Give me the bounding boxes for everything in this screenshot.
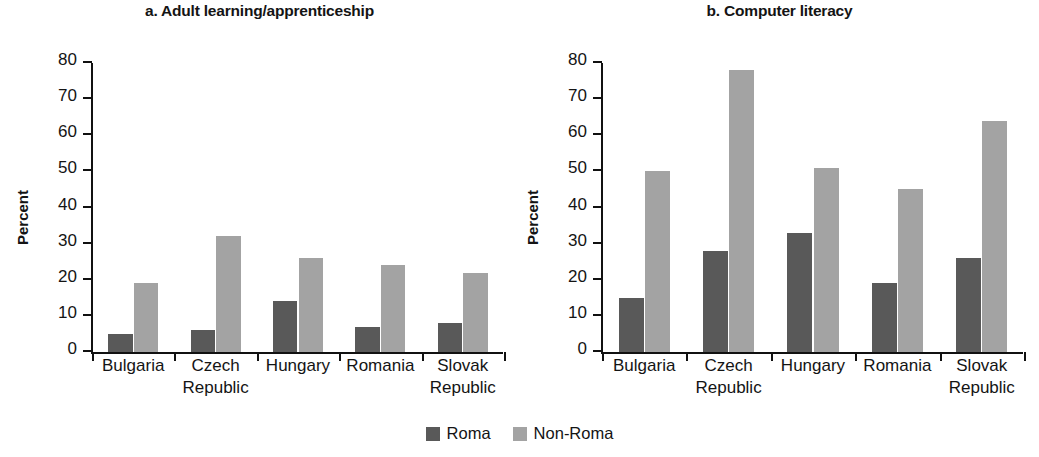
bar-a-bulgaria-non-roma	[134, 283, 158, 352]
y-axis-tick: 10	[593, 314, 602, 316]
panel-b-y-axis-line	[601, 63, 603, 353]
panel-a-y-axis-line	[91, 63, 93, 353]
y-axis-tick: 20	[593, 278, 602, 280]
y-axis-tick-label: 50	[568, 158, 587, 178]
panel-b-plot-area: BulgariaCzechRepublicHungaryRomaniaSlova…	[602, 63, 1024, 352]
bar-a-romania-roma	[355, 327, 379, 352]
bar-b-romania-roma	[872, 283, 897, 352]
bar-a-czech-republic-roma	[191, 330, 215, 352]
y-axis-tick: 80	[83, 61, 92, 63]
x-axis-category-label: Hungary	[771, 355, 855, 377]
bar-b-czech-republic-non-roma	[729, 70, 754, 352]
y-axis-tick: 0	[83, 350, 92, 352]
y-axis-tick-label: 40	[58, 195, 77, 215]
legend-label: Non-Roma	[534, 424, 614, 443]
x-axis-category-label: SlovakRepublic	[422, 355, 504, 399]
bar-b-hungary-roma	[787, 233, 812, 352]
panel-a-y-axis-label: Percent	[14, 190, 31, 245]
x-axis-category-label: Hungary	[257, 355, 339, 377]
legend-label: Roma	[447, 424, 491, 443]
y-axis-tick: 40	[83, 206, 92, 208]
y-axis-tick: 30	[593, 242, 602, 244]
y-axis-tick: 60	[593, 133, 602, 135]
legend-item-non-roma: Non-Roma	[513, 424, 614, 443]
x-axis-tick	[339, 352, 341, 361]
legend-item-roma: Roma	[426, 424, 491, 443]
x-axis-tick	[92, 352, 94, 361]
bar-a-czech-republic-non-roma	[216, 236, 240, 352]
chart-panel-a: a. Adult learning/apprenticeship Percent…	[0, 0, 519, 412]
legend-swatch-roma	[426, 427, 440, 441]
bar-b-bulgaria-non-roma	[645, 171, 670, 352]
x-axis-tick	[422, 352, 424, 361]
y-axis-tick-label: 20	[58, 267, 77, 287]
x-axis-tick	[686, 352, 688, 361]
panel-b-x-axis-line	[601, 352, 1023, 354]
panel-b-y-axis-label: Percent	[524, 190, 541, 245]
y-axis-tick: 40	[593, 206, 602, 208]
panel-b-category-labels: BulgariaCzechRepublicHungaryRomaniaSlova…	[602, 355, 1024, 415]
bar-b-czech-republic-roma	[703, 251, 728, 352]
x-axis-category-label: CzechRepublic	[174, 355, 256, 399]
x-axis-category-label: Bulgaria	[92, 355, 174, 377]
y-axis-tick: 0	[593, 350, 602, 352]
y-axis-tick: 50	[593, 169, 602, 171]
panel-a-x-axis-line	[91, 352, 503, 354]
y-axis-tick-label: 40	[568, 195, 587, 215]
x-axis-tick	[940, 352, 942, 361]
x-axis-category-label: CzechRepublic	[686, 355, 770, 399]
y-axis-tick-label: 10	[58, 303, 77, 323]
y-axis-tick-label: 30	[58, 231, 77, 251]
bar-b-hungary-non-roma	[814, 168, 839, 352]
bar-b-romania-non-roma	[898, 189, 923, 352]
x-axis-tick	[504, 352, 506, 361]
x-axis-tick	[771, 352, 773, 361]
y-axis-tick: 50	[83, 169, 92, 171]
bar-b-slovak-republic-non-roma	[982, 121, 1007, 352]
y-axis-tick: 70	[83, 97, 92, 99]
bar-b-bulgaria-roma	[619, 298, 644, 352]
panel-a-title: a. Adult learning/apprenticeship	[0, 2, 519, 20]
y-axis-tick: 20	[83, 278, 92, 280]
y-axis-tick-label: 60	[58, 122, 77, 142]
y-axis-tick-label: 70	[568, 86, 587, 106]
y-axis-tick-label: 0	[578, 339, 587, 359]
x-axis-tick	[1024, 352, 1026, 361]
y-axis-tick-label: 0	[68, 339, 77, 359]
x-axis-tick	[257, 352, 259, 361]
panel-a-category-labels: BulgariaCzechRepublicHungaryRomaniaSlova…	[92, 355, 504, 415]
y-axis-tick: 60	[83, 133, 92, 135]
x-axis-category-label: SlovakRepublic	[940, 355, 1024, 399]
y-axis-tick-label: 80	[568, 50, 587, 70]
panel-a-plot-area: BulgariaCzechRepublicHungaryRomaniaSlova…	[92, 63, 504, 352]
chart-panel-b: b. Computer literacy Percent BulgariaCze…	[520, 0, 1039, 412]
bar-a-romania-non-roma	[381, 265, 405, 352]
x-axis-tick	[174, 352, 176, 361]
y-axis-tick-label: 20	[568, 267, 587, 287]
x-axis-category-label: Romania	[855, 355, 939, 377]
chart-legend: RomaNon-Roma	[0, 424, 1039, 443]
y-axis-tick-label: 50	[58, 158, 77, 178]
bar-a-slovak-republic-roma	[438, 323, 462, 352]
legend-swatch-non-roma	[513, 427, 527, 441]
y-axis-tick: 70	[593, 97, 602, 99]
bar-a-slovak-republic-non-roma	[463, 273, 487, 352]
bar-b-slovak-republic-roma	[956, 258, 981, 352]
bar-a-hungary-roma	[273, 301, 297, 352]
y-axis-tick-label: 80	[58, 50, 77, 70]
x-axis-category-label: Romania	[339, 355, 421, 377]
y-axis-tick-label: 10	[568, 303, 587, 323]
bar-a-hungary-non-roma	[299, 258, 323, 352]
y-axis-tick-label: 30	[568, 231, 587, 251]
x-axis-tick	[855, 352, 857, 361]
x-axis-tick	[602, 352, 604, 361]
y-axis-tick: 10	[83, 314, 92, 316]
figure: a. Adult learning/apprenticeship Percent…	[0, 0, 1039, 457]
y-axis-tick-label: 70	[58, 86, 77, 106]
y-axis-tick: 30	[83, 242, 92, 244]
y-axis-tick-label: 60	[568, 122, 587, 142]
bar-a-bulgaria-roma	[108, 334, 132, 352]
x-axis-category-label: Bulgaria	[602, 355, 686, 377]
y-axis-tick: 80	[593, 61, 602, 63]
panel-b-title: b. Computer literacy	[520, 2, 1039, 20]
